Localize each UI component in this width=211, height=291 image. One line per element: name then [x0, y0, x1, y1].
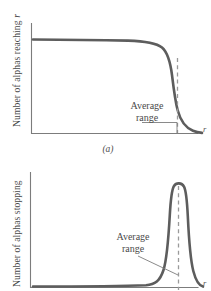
panel-a-annotation-line1: Average [130, 100, 164, 111]
panel-b-annotation-line1: Average [116, 231, 150, 242]
panel-b-ylabel: Number of alphas stopping [11, 180, 22, 287]
panel-a-annotation-line2: range [136, 112, 159, 123]
figure-container: Number of alphas reaching r Average rang… [0, 0, 211, 291]
chart-panel-b: Number of alphas stopping Average range … [0, 160, 211, 291]
panel-b-xlabel: r [203, 278, 207, 288]
panel-a-curve [33, 40, 202, 133]
panel-a-svg: Number of alphas reaching r Average rang… [0, 0, 211, 160]
panel-b-ylabel-main: Number of alphas stopping [11, 180, 22, 287]
panel-a-xlabel: r [203, 124, 207, 134]
chart-panel-a: Number of alphas reaching r Average rang… [0, 0, 211, 160]
panel-a-ylabel-var: r [11, 14, 22, 18]
panel-b-annotation-line2: range [122, 243, 145, 254]
panel-a-caption: (a) [102, 144, 113, 155]
panel-b-annotation-leader [138, 256, 178, 275]
panel-a-annotation-leader [142, 123, 177, 134]
panel-b-svg: Number of alphas stopping Average range … [0, 160, 211, 291]
panel-a-ylabel: Number of alphas reaching r [11, 14, 22, 127]
panel-a-ylabel-main: Number of alphas reaching [11, 18, 22, 127]
